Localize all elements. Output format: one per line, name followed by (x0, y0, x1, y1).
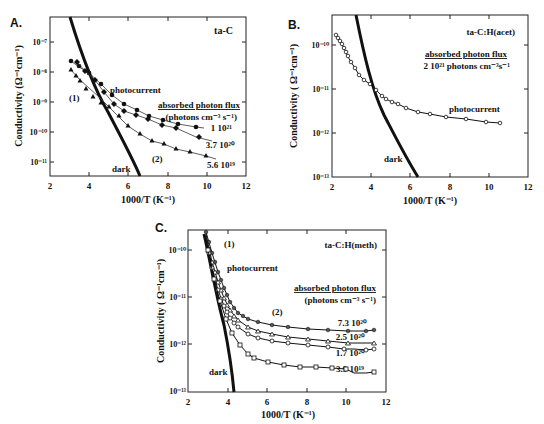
svg-text:8: 8 (166, 181, 171, 191)
panel-c-marker-2: (2) (272, 307, 283, 317)
svg-text:6: 6 (265, 397, 270, 407)
panel-b-legend-title: absorbed photon flux (425, 49, 508, 59)
svg-text:2: 2 (186, 397, 191, 407)
svg-text:10⁻¹¹: 10⁻¹¹ (30, 158, 47, 167)
svg-text:10⁻¹²: 10⁻¹² (312, 129, 329, 138)
panel-b-title: ta-C:H(acet) (467, 27, 515, 37)
panel-c-label: C. (155, 221, 167, 235)
panel-c-photocurrent-label: photocurrent (227, 263, 278, 273)
panel-b-photocurrent-label: photocurrent (449, 104, 500, 114)
svg-text:10: 10 (203, 181, 213, 191)
panel-b-dark-label: dark (384, 154, 403, 164)
panel-c-x-tick-labels: 2 4 6 8 10 12 (186, 397, 391, 407)
svg-text:10⁻¹³: 10⁻¹³ (312, 173, 329, 182)
panel-b-chart: B. 2 4 6 8 10 12 10⁻¹⁰ 10⁻¹¹ 10⁻¹² 10⁻¹³… (272, 0, 544, 210)
svg-text:10⁻¹⁰: 10⁻¹⁰ (169, 246, 187, 255)
panel-b-x-tick-labels: 2 4 6 8 10 12 (330, 182, 533, 192)
svg-text:10⁻⁷: 10⁻⁷ (33, 38, 48, 47)
panel-a-y-tick-labels: 10⁻⁷ 10⁻⁸ 10⁻⁹ 10⁻¹⁰ 10⁻¹¹ (30, 38, 48, 167)
svg-text:6: 6 (126, 181, 131, 191)
panel-c-marker-1: (1) (224, 239, 235, 249)
panel-b-y-tick-labels: 10⁻¹⁰ 10⁻¹¹ 10⁻¹² 10⁻¹³ (312, 41, 330, 182)
panel-c-chart: C. 2 4 6 8 10 12 10⁻¹⁰ 10⁻¹¹ 10⁻¹² 10⁻¹³… (130, 210, 430, 424)
svg-text:10⁻¹²: 10⁻¹² (169, 340, 186, 349)
panel-a-legend-units: (photons cm⁻³ s⁻¹) (166, 112, 237, 122)
panel-b-dark-curve (356, 15, 418, 177)
svg-text:10: 10 (485, 182, 495, 192)
svg-text:12: 12 (242, 181, 252, 191)
svg-text:10⁻⁸: 10⁻⁸ (33, 68, 48, 77)
panel-b-x-ticks (371, 15, 489, 177)
panel-c-flux-1: 7.3 10²⁰ (338, 318, 367, 328)
svg-text:10⁻¹³: 10⁻¹³ (169, 387, 186, 396)
panel-a-flux-3: 5.6 10¹⁹ (207, 160, 235, 170)
panel-a-marker-1: (1) (69, 93, 80, 103)
panel-c-title: ta-C:H(meth) (325, 240, 377, 250)
panel-c-y-axis-label: Conductivity ( Ω⁻¹cm⁻¹) (155, 259, 167, 363)
panel-b-x-axis-label: 1000/T (K⁻¹) (403, 195, 457, 207)
svg-text:6: 6 (408, 182, 413, 192)
svg-text:10⁻¹⁰: 10⁻¹⁰ (312, 41, 330, 50)
panel-a-chart: A. 2 4 6 8 10 12 10⁻⁷ 10⁻⁸ 10⁻⁹ 10⁻¹⁰ 10… (0, 0, 272, 210)
svg-text:2: 2 (48, 181, 53, 191)
panel-b-legend-text: 2 10²¹ photons cm⁻³s⁻¹ (423, 61, 510, 71)
svg-text:12: 12 (382, 397, 392, 407)
svg-text:10⁻⁹: 10⁻⁹ (33, 98, 48, 107)
panel-c-dark-label: dark (209, 367, 228, 377)
panel-c-y-tick-labels: 10⁻¹⁰ 10⁻¹¹ 10⁻¹² 10⁻¹³ (169, 246, 187, 396)
svg-text:8: 8 (448, 182, 453, 192)
panel-a-y-axis-label: Conductivity (Ω⁻¹cm⁻¹) (13, 45, 25, 147)
svg-text:4: 4 (87, 181, 92, 191)
panel-a-flux-2: 3.7 10²⁰ (206, 140, 235, 150)
panel-a-photocurrent-label: photocurrent (110, 85, 161, 95)
panel-a-label: A. (10, 16, 22, 30)
panel-b-y-axis-label: Conductivity ( Ω⁻¹cm⁻¹) (288, 44, 300, 148)
panel-a-flux-1: 1 10²¹ (211, 123, 232, 133)
panel-c-legend-title: absorbed photon flux (294, 283, 377, 293)
svg-text:10⁻¹¹: 10⁻¹¹ (312, 85, 329, 94)
svg-text:Conductivity ( Ω⁻¹cm⁻¹): Conductivity ( Ω⁻¹cm⁻¹) (288, 44, 300, 148)
panel-a-title: ta-C (214, 25, 233, 36)
panel-c-legend-units: (photons cm⁻³ s⁻¹) (305, 295, 376, 305)
svg-text:Conductivity (Ω⁻¹cm⁻¹): Conductivity (Ω⁻¹cm⁻¹) (13, 45, 25, 147)
svg-text:2: 2 (330, 182, 335, 192)
svg-text:10: 10 (342, 397, 352, 407)
svg-text:8: 8 (305, 397, 310, 407)
panel-a-x-axis-label: 1000/T (K⁻¹) (121, 194, 175, 206)
svg-text:10⁻¹⁰: 10⁻¹⁰ (30, 128, 48, 137)
svg-text:4: 4 (369, 182, 374, 192)
svg-text:12: 12 (524, 182, 534, 192)
svg-text:Conductivity ( Ω⁻¹cm⁻¹): Conductivity ( Ω⁻¹cm⁻¹) (155, 259, 167, 363)
panel-a-legend-title: absorbed photon flux (158, 100, 241, 110)
panel-a-x-tick-labels: 2 4 6 8 10 12 (48, 181, 251, 191)
panel-b-label: B. (288, 18, 300, 32)
svg-text:10⁻¹¹: 10⁻¹¹ (169, 293, 186, 302)
panel-a-marker-2: (2) (152, 154, 163, 164)
panel-c-flux-2: 2.5 10²⁰ (336, 332, 365, 342)
svg-text:4: 4 (226, 397, 231, 407)
panel-c-x-axis-label: 1000/T (K⁻¹) (261, 409, 315, 421)
panel-a-dark-curve (70, 17, 140, 176)
panel-a-dark-label: dark (112, 164, 131, 174)
